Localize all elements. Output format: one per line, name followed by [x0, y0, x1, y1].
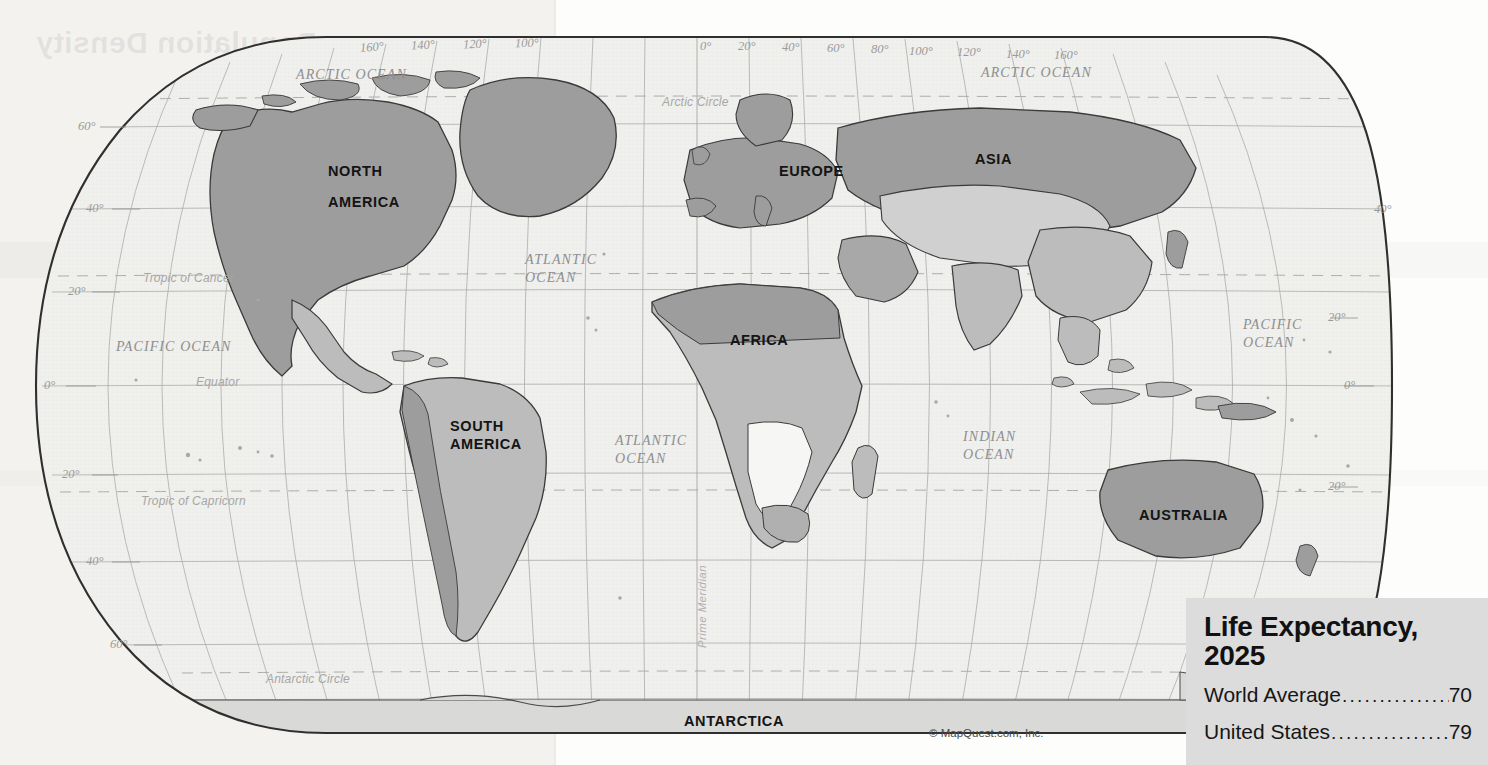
- map-page: Population Density: [0, 0, 1488, 765]
- legend-row-world-average: World Average ..........................…: [1204, 683, 1472, 707]
- landmass-alaska: [193, 105, 258, 131]
- legend-row-dots: ........................................…: [1341, 685, 1449, 707]
- legend-title-line1: Life Expectancy,: [1204, 612, 1472, 641]
- legend-row-value: 79: [1449, 720, 1472, 744]
- legend-title-line2: 2025: [1204, 641, 1472, 670]
- legend-title: Life Expectancy, 2025: [1204, 612, 1472, 670]
- landmass-australia: [1100, 460, 1263, 558]
- legend-info-box: Life Expectancy, 2025 World Average ....…: [1186, 598, 1488, 765]
- legend-row-dots: ........................................…: [1330, 722, 1449, 744]
- legend-row-label: United States: [1204, 720, 1330, 744]
- legend-row-label: World Average: [1204, 683, 1341, 707]
- legend-row-united-states: United States ..........................…: [1204, 720, 1472, 744]
- legend-row-value: 70: [1449, 683, 1472, 707]
